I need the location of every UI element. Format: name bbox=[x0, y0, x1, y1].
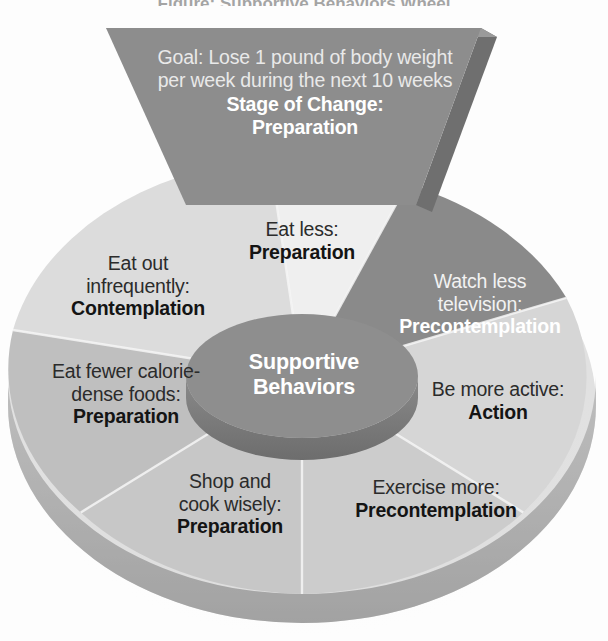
funnel-face[interactable] bbox=[106, 28, 481, 205]
hub-top[interactable] bbox=[186, 314, 418, 438]
wheel-graphic bbox=[0, 0, 608, 641]
diagram-canvas: Figure: Supportive Behaviors Wheel bbox=[0, 0, 608, 641]
